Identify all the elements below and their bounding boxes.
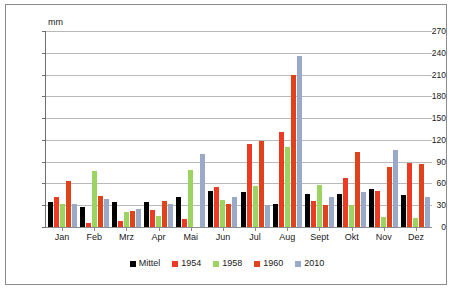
bar bbox=[253, 186, 258, 227]
bar bbox=[92, 171, 97, 227]
bar bbox=[66, 181, 71, 227]
legend-item[interactable]: 1958 bbox=[213, 259, 242, 268]
x-axis-tick-mark bbox=[416, 227, 417, 231]
x-axis-tick-mark bbox=[384, 227, 385, 231]
x-axis-tick-label: Mai bbox=[175, 233, 207, 242]
bar bbox=[369, 189, 374, 227]
x-axis-tick-mark bbox=[352, 227, 353, 231]
bar bbox=[112, 202, 117, 227]
bar bbox=[343, 178, 348, 227]
chart-frame: mm 2702402101801501209060300 JanFebMrzAp… bbox=[5, 4, 447, 285]
legend-item-label: 2010 bbox=[304, 259, 324, 268]
bar bbox=[387, 167, 392, 227]
y-axis-tick-mark bbox=[42, 53, 45, 54]
bar bbox=[279, 132, 284, 227]
bar bbox=[393, 150, 398, 227]
x-axis-tick-labels: JanFebMrzAprMaiJunJulAugSeptOktNovDez bbox=[46, 233, 432, 242]
bar bbox=[361, 192, 366, 227]
x-axis-tick-mark bbox=[223, 227, 224, 231]
x-axis-tick-label: Dez bbox=[400, 233, 432, 242]
bar bbox=[168, 204, 173, 227]
legend-item[interactable]: 1954 bbox=[172, 259, 201, 268]
x-axis-tick-label: Jan bbox=[46, 233, 78, 242]
legend-swatch-icon bbox=[172, 261, 178, 267]
y-axis-tick-mark bbox=[42, 96, 45, 97]
bar bbox=[285, 147, 290, 227]
bar-group bbox=[303, 31, 335, 227]
bar-group bbox=[207, 31, 239, 227]
x-axis-tick-mark bbox=[191, 227, 192, 231]
bar bbox=[54, 197, 59, 227]
bar bbox=[86, 223, 91, 227]
gridline bbox=[46, 227, 432, 228]
bar-group bbox=[143, 31, 175, 227]
x-axis-tick-label: Jul bbox=[239, 233, 271, 242]
x-axis-tick-mark bbox=[255, 227, 256, 231]
x-axis-tick-label: Feb bbox=[78, 233, 110, 242]
bar bbox=[232, 197, 237, 227]
y-axis-tick-mark bbox=[42, 227, 45, 228]
bar bbox=[130, 211, 135, 227]
bar bbox=[136, 209, 141, 227]
bar bbox=[329, 197, 334, 227]
legend-item-label: 1958 bbox=[222, 259, 242, 268]
bar bbox=[156, 216, 161, 227]
bar-group bbox=[175, 31, 207, 227]
bar bbox=[144, 202, 149, 227]
x-axis-tick-label: Nov bbox=[368, 233, 400, 242]
x-axis-tick-label: Sept bbox=[303, 233, 335, 242]
x-axis-tick-mark bbox=[62, 227, 63, 231]
y-axis-tick-mark bbox=[42, 183, 45, 184]
bar bbox=[162, 201, 167, 227]
bar bbox=[265, 205, 270, 227]
bar bbox=[118, 221, 123, 227]
bar-group bbox=[46, 31, 78, 227]
bar bbox=[104, 199, 109, 227]
bar bbox=[208, 191, 213, 227]
y-axis-tick-mark bbox=[42, 205, 45, 206]
bar bbox=[182, 219, 187, 227]
bar bbox=[305, 194, 310, 227]
bar bbox=[381, 217, 386, 227]
y-axis-unit-label: mm bbox=[48, 18, 63, 27]
legend-item[interactable]: 1960 bbox=[254, 259, 283, 268]
bar-group bbox=[368, 31, 400, 227]
bar bbox=[150, 210, 155, 227]
bar bbox=[259, 141, 264, 227]
x-axis-tick-mark bbox=[159, 227, 160, 231]
y-axis-tick-mark bbox=[42, 118, 45, 119]
legend-swatch-icon bbox=[130, 261, 136, 267]
x-axis-tick-label: Aug bbox=[271, 233, 303, 242]
bar bbox=[337, 194, 342, 227]
bar-group bbox=[400, 31, 432, 227]
bar bbox=[413, 218, 418, 227]
bar bbox=[80, 207, 85, 227]
legend-item-label: 1960 bbox=[263, 259, 283, 268]
bar-group bbox=[271, 31, 303, 227]
chart-legend: Mittel1954195819602010 bbox=[6, 259, 448, 268]
bar bbox=[311, 201, 316, 227]
bar bbox=[355, 152, 360, 227]
x-axis-tick-label: Apr bbox=[143, 233, 175, 242]
bar-group bbox=[336, 31, 368, 227]
legend-item[interactable]: 2010 bbox=[295, 259, 324, 268]
bar bbox=[323, 205, 328, 228]
bar bbox=[200, 154, 205, 227]
bar bbox=[124, 212, 129, 227]
x-axis-tick-mark bbox=[94, 227, 95, 231]
bar bbox=[241, 192, 246, 227]
bar bbox=[407, 163, 412, 227]
bar bbox=[72, 204, 77, 227]
bar-group bbox=[239, 31, 271, 227]
x-axis-tick-label: Okt bbox=[336, 233, 368, 242]
bar-group bbox=[78, 31, 110, 227]
bar bbox=[188, 170, 193, 227]
bar-group bbox=[110, 31, 142, 227]
legend-item-label: 1954 bbox=[181, 259, 201, 268]
legend-item[interactable]: Mittel bbox=[130, 259, 161, 268]
bar bbox=[425, 197, 430, 227]
x-axis-tick-mark bbox=[287, 227, 288, 231]
bar bbox=[220, 200, 225, 227]
bar bbox=[247, 144, 252, 227]
y-axis-tick-mark bbox=[42, 162, 45, 163]
